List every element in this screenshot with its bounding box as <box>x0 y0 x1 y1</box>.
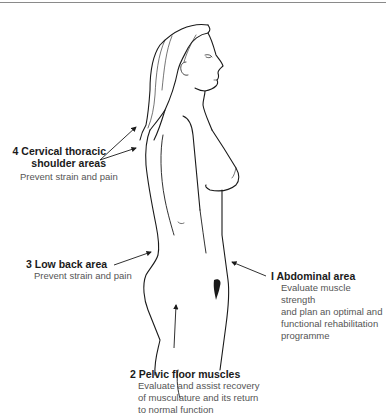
pubic-area <box>214 279 221 300</box>
annotation-2-title: 2 Pelvic floor muscles <box>130 368 259 380</box>
breast-outline <box>206 130 239 191</box>
front-torso <box>220 190 229 370</box>
annotation-3: 3 Low back area Prevent strain and pain <box>26 258 132 282</box>
annotation-2-desc-line3: to normal function <box>130 404 259 416</box>
back-outline <box>144 130 160 375</box>
annotation-4-title-line2: shoulder areas <box>6 157 106 169</box>
annotation-1-title: I Abdominal area <box>271 270 386 282</box>
face-profile <box>195 33 223 91</box>
annotation-4-desc: Prevent strain and pain <box>20 171 118 183</box>
annotation-1-desc-line1: Evaluate muscle strength <box>271 282 386 306</box>
annotation-4-desc-line: Prevent strain and pain <box>20 171 118 183</box>
arm-line <box>200 210 206 253</box>
annotation-4-title-line1: 4 Cervical thoracic <box>6 145 106 157</box>
arrow-2 <box>174 305 176 348</box>
annotation-1: I Abdominal area Evaluate muscle strengt… <box>271 270 386 342</box>
arrow-1 <box>232 262 266 276</box>
annotation-1-desc-line3: functional rehabilitation <box>271 318 386 330</box>
annotation-1-desc-line4: programme <box>271 330 386 342</box>
annotation-2: 2 Pelvic floor muscles Evaluate and assi… <box>130 368 259 416</box>
annotation-3-desc: Prevent strain and pain <box>26 270 132 282</box>
annotation-2-desc-line1: Evaluate and assist recovery <box>130 380 259 392</box>
annotation-1-desc-line2: and plan an optimal and <box>271 306 386 318</box>
annotation-3-title: 3 Low back area <box>26 258 132 270</box>
annotation-2-desc-line2: of musculature and its return <box>130 392 259 404</box>
annotation-4: 4 Cervical thoracic shoulder areas <box>6 145 106 169</box>
body-outline-figure <box>0 0 386 417</box>
